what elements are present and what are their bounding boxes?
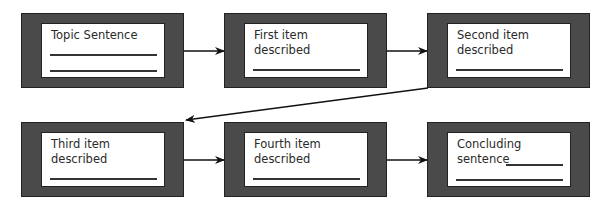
first-item-inner: First item described (244, 23, 368, 78)
writing-line (506, 164, 563, 166)
box-label: Third item described (51, 137, 141, 167)
writing-line (253, 69, 360, 71)
fourth-item-box: Fourth item described (224, 122, 387, 197)
writing-line (456, 179, 563, 181)
arrow-second-to-third (186, 88, 428, 120)
second-item-box: Second item described (427, 13, 590, 88)
concluding-sentence-box: Concluding sentence (427, 122, 590, 197)
writing-line (50, 178, 157, 180)
box-label: Concluding sentence (457, 137, 527, 167)
writing-line (253, 178, 360, 180)
writing-line (50, 70, 157, 72)
fourth-item-inner: Fourth item described (244, 132, 368, 187)
writing-line (456, 69, 563, 71)
box-label: Topic Sentence (51, 28, 156, 43)
box-label: Second item described (457, 28, 547, 58)
topic-sentence-inner: Topic Sentence (41, 23, 165, 78)
box-label: Fourth item described (254, 137, 344, 167)
topic-sentence-box: Topic Sentence (21, 13, 184, 88)
writing-line (50, 54, 157, 56)
concluding-sentence-inner: Concluding sentence (447, 132, 571, 187)
second-item-inner: Second item described (447, 23, 571, 78)
first-item-box: First item described (224, 13, 387, 88)
box-label: First item described (254, 28, 344, 58)
third-item-box: Third item described (21, 122, 184, 197)
third-item-inner: Third item described (41, 132, 165, 187)
